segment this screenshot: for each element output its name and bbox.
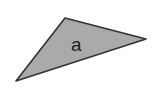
diagram-canvas: a (0, 0, 164, 104)
triangle-label: a (71, 34, 82, 55)
